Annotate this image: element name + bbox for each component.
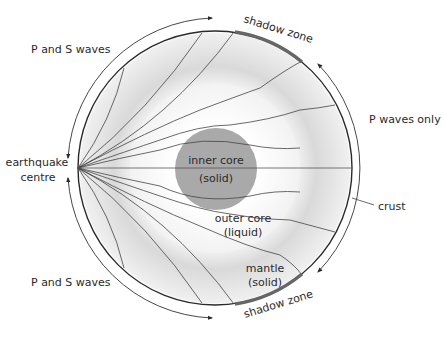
earth-seismic-diagram: P and S waves P and S waves P waves only… xyxy=(0,0,444,337)
label-mantle: mantle xyxy=(246,262,285,275)
label-p-and-s-waves-top: P and S waves xyxy=(31,43,111,56)
label-mantle-state: (solid) xyxy=(248,276,282,289)
label-crust: crust xyxy=(378,200,406,213)
label-p-waves-only: P waves only xyxy=(369,113,441,126)
label-centre: centre xyxy=(20,171,55,184)
label-outer-core-state: (liquid) xyxy=(224,226,263,239)
label-inner-core-state: (solid) xyxy=(199,172,233,185)
label-earthquake: earthquake xyxy=(6,156,69,169)
inner-core-layer xyxy=(175,128,257,210)
label-p-and-s-waves-bottom: P and S waves xyxy=(31,276,111,289)
label-inner-core: inner core xyxy=(188,154,244,167)
label-outer-core: outer core xyxy=(215,212,272,225)
